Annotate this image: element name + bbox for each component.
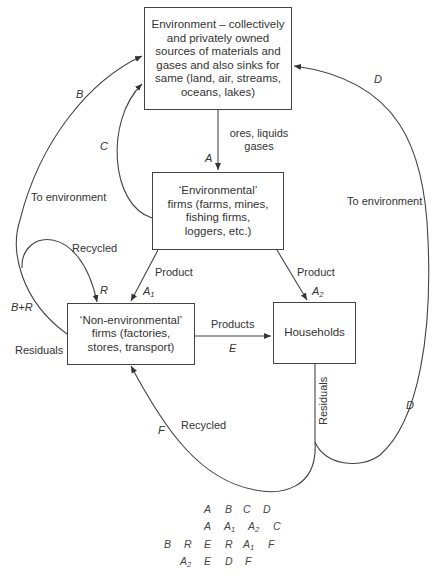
row4-F: F: [245, 555, 251, 567]
label-A2-sub: 2: [319, 290, 323, 299]
products-label: Products: [211, 318, 254, 330]
row1-B: B: [225, 503, 232, 515]
ores-label: ores, liquids gases: [224, 127, 294, 153]
residuals-vertical-label: Residuals: [317, 377, 329, 425]
environment-label: Environment – collectively and privately…: [151, 18, 285, 99]
recycled-bottom-label: Recycled: [181, 419, 226, 431]
product-left-label: Product: [155, 266, 193, 278]
row2-C: C: [273, 520, 281, 532]
label-A1-sub: 1: [150, 290, 154, 299]
environmental-firms-node: ‘Environmental’ firms (farms, mines, fis…: [152, 172, 284, 250]
row3-F: F: [268, 538, 274, 550]
to-environment-left: To environment: [31, 191, 106, 203]
recycled-top-label: Recycled: [72, 242, 117, 254]
product-right-label: Product: [297, 266, 335, 278]
label-B-plus-R: B+R: [11, 301, 33, 313]
row3-A1: A1: [243, 538, 254, 552]
row3-R2: R: [225, 538, 233, 550]
residuals-left-label: Residuals: [15, 344, 63, 356]
row4-D: D: [225, 555, 233, 567]
row3-B: B: [164, 538, 171, 550]
label-R: R: [100, 284, 108, 296]
row2-A: A: [204, 520, 211, 532]
households-label: Households: [284, 326, 345, 340]
row3-R: R: [184, 538, 192, 550]
environment-node: Environment – collectively and privately…: [144, 7, 292, 110]
label-E: E: [229, 342, 236, 354]
row1-A: A: [204, 503, 211, 515]
row4-E: E: [204, 555, 211, 567]
non-environmental-firms-label: ‘Non-environmental’ firms (factories, st…: [76, 314, 186, 355]
label-B: B: [76, 88, 83, 100]
label-A: A: [205, 152, 212, 164]
to-environment-right: To environment: [347, 195, 422, 207]
label-D-top: D: [374, 73, 382, 85]
row4-A2: A2: [180, 555, 191, 569]
label-A2: A2: [312, 285, 324, 299]
label-A1: A1: [143, 285, 155, 299]
label-F: F: [158, 424, 165, 436]
label-C: C: [100, 140, 108, 152]
row3-E: E: [204, 538, 211, 550]
row2-A2: A2: [248, 520, 259, 534]
row1-D: D: [263, 503, 271, 515]
environmental-firms-label: ‘Environmental’ firms (farms, mines, fis…: [167, 184, 269, 238]
non-environmental-firms-node: ‘Non-environmental’ firms (factories, st…: [67, 303, 195, 365]
row2-A1: A1: [224, 520, 235, 534]
row1-C: C: [243, 503, 251, 515]
label-D-bottom: D: [406, 399, 414, 411]
households-node: Households: [273, 302, 356, 364]
